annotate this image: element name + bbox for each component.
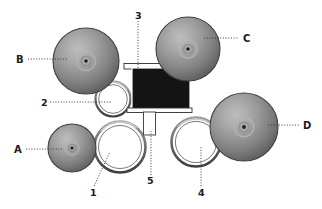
block-bottom-bar [127, 108, 192, 113]
diagram-canvas: A B C D 1 2 3 4 5 [0, 0, 322, 209]
lower-left-sphere [48, 124, 96, 172]
upper-right-sphere [156, 17, 220, 81]
lower-left-ring [95, 122, 146, 173]
upper-left-sphere [53, 28, 119, 94]
central-stem [144, 112, 156, 135]
label-4: 4 [198, 187, 205, 198]
label-D: D [303, 120, 311, 131]
label-1: 1 [90, 187, 97, 198]
label-5: 5 [147, 175, 154, 186]
label-3: 3 [135, 10, 142, 21]
label-B: B [16, 54, 24, 65]
label-C: C [243, 33, 250, 44]
label-2: 2 [41, 97, 48, 108]
right-sphere [210, 93, 278, 161]
diagram-svg: A B C D 1 2 3 4 5 [0, 0, 322, 209]
label-A: A [14, 144, 22, 155]
